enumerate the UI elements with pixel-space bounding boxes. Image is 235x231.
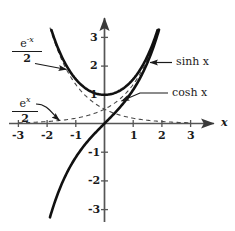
y-tick-label-3: 3 (90, 32, 98, 43)
y-tick-label-2: 2 (90, 60, 98, 71)
fraction-denominator-2: 2 (12, 113, 38, 125)
annotation-leaders (35, 63, 172, 121)
x-tick-label-3: 3 (187, 130, 195, 141)
hyperbolic-functions-figure: -3 -2 -1 1 2 3 3 2 1 -1 -2 -3 x sinh x c… (0, 0, 235, 231)
x-tick-label-1: 1 (130, 130, 138, 141)
fraction-denominator-2: 2 (12, 53, 42, 65)
y-tick-label-1: 1 (90, 89, 98, 100)
y-tick-label--1: -1 (88, 147, 100, 158)
fraction-numerator-e-neg-x: e-x (12, 34, 42, 50)
curve-label-sinh: sinh x (176, 56, 209, 67)
y-tick-label--3: -3 (88, 204, 100, 215)
curve-label-e-neg-x-over-2: e-x 2 (12, 34, 42, 65)
curve-label-e-x-over-2: ex 2 (12, 94, 38, 125)
leader-e-x-over-2 (36, 104, 60, 121)
x-tick-label-2: 2 (158, 130, 166, 141)
x-tick-label--3: -3 (12, 130, 24, 141)
x-tick-label--2: -2 (41, 130, 53, 141)
y-tick-label--2: -2 (88, 175, 100, 186)
x-tick-label--1: -1 (70, 130, 82, 141)
curve-label-cosh: cosh x (172, 87, 207, 98)
x-axis-label: x (221, 117, 228, 128)
fraction-numerator-e-x: ex (12, 94, 38, 110)
